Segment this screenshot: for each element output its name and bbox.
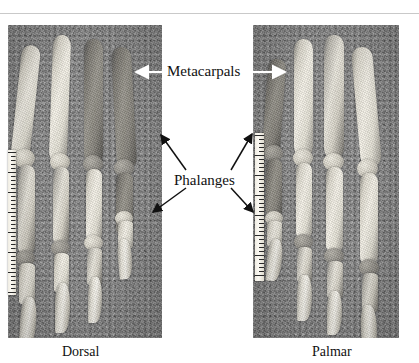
scale-ruler-dorsal bbox=[8, 150, 16, 295]
bone-phalanx-prox-p2 bbox=[296, 163, 312, 239]
bone-metacarpal-2 bbox=[49, 35, 71, 164]
bone-metacarpal-4 bbox=[111, 47, 137, 170]
bone-phalanx-prox-p4 bbox=[360, 173, 378, 265]
photo-dorsal-view bbox=[8, 25, 162, 338]
ruler-major-ticks bbox=[255, 135, 264, 279]
bone-phalanx-prox-p3 bbox=[326, 167, 343, 253]
claw-p2 bbox=[297, 275, 312, 321]
ruler-major-ticks bbox=[8, 152, 16, 293]
bone-phalanx-prox-p1 bbox=[266, 159, 282, 217]
bone-metacarpal-p1 bbox=[262, 58, 287, 155]
bone-metacarpal-1 bbox=[10, 44, 41, 165]
scale-ruler-palmar bbox=[255, 133, 264, 281]
bone-metacarpal-3 bbox=[84, 39, 103, 165]
caption-dorsal: Dorsal bbox=[62, 345, 99, 359]
figure-plate: Metacarpals Phalanges Dorsal Palmar bbox=[0, 0, 419, 363]
bone-metacarpal-p2 bbox=[294, 39, 313, 157]
claw-p1 bbox=[266, 239, 284, 282]
arrow-phalanges-upper-right bbox=[231, 134, 252, 170]
top-divider-rule bbox=[0, 13, 419, 14]
bone-phalanx-prox-1 bbox=[18, 165, 35, 255]
bone-phalanx-prox-2 bbox=[53, 167, 69, 245]
photo-palmar-view bbox=[253, 25, 399, 338]
bone-metacarpal-p4 bbox=[351, 46, 382, 167]
caption-palmar: Palmar bbox=[312, 345, 352, 359]
bone-phalanx-prox-3 bbox=[86, 169, 102, 241]
arrow-phalanges-upper-left bbox=[161, 135, 186, 170]
label-phalanges: Phalanges bbox=[174, 173, 235, 188]
claw-3 bbox=[88, 277, 102, 323]
arrow-phalanges-lower-right bbox=[231, 188, 253, 212]
bone-metacarpal-p3 bbox=[324, 35, 344, 159]
label-metacarpals: Metacarpals bbox=[167, 64, 240, 79]
claw-2 bbox=[55, 283, 70, 333]
claw-p3 bbox=[327, 291, 342, 335]
